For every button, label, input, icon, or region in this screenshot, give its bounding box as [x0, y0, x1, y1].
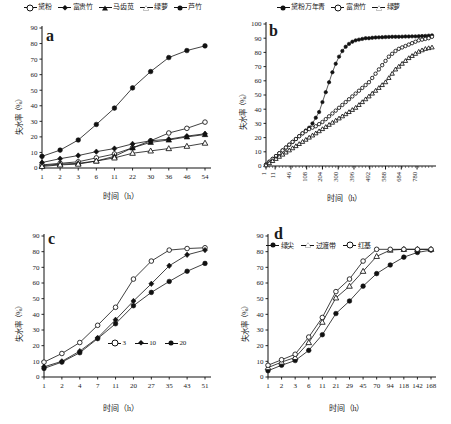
y-tick-label: 30	[33, 326, 41, 334]
panel-a: 黛粉富贵竹马齿苋绿萝芦竹 a 0102030405060708090123611…	[0, 0, 226, 212]
y-tick-label: 50	[255, 91, 263, 99]
x-tick-label: 1	[266, 382, 270, 390]
legend-line	[165, 343, 178, 344]
y-tick-label: 60	[257, 279, 265, 287]
legend-line	[301, 245, 314, 246]
x-tick-label: 45	[360, 382, 368, 390]
y-tick-label: 90	[33, 232, 41, 240]
y-tick-label: 40	[31, 102, 39, 110]
panel-d: d 01020304050607080901236112129457094118…	[226, 212, 451, 424]
series-黛粉	[40, 120, 208, 167]
legend-item-label: 10	[149, 339, 156, 347]
panel-b-plot: 0102030405060708090100111461082043003964…	[226, 0, 451, 212]
y-tick-label: 70	[255, 63, 263, 71]
x-tick-label: 46	[183, 173, 191, 181]
x-tick-label: 11	[269, 172, 276, 178]
x-tick-label: 780	[411, 172, 418, 182]
legend-item[interactable]: 红基	[343, 240, 371, 250]
panel-a-plot: 01020304050607080901236112230364654	[0, 0, 226, 212]
y-tick-label: 20	[33, 342, 41, 350]
legend-item-label: 20	[179, 339, 186, 347]
y-tick-label: 20	[31, 133, 39, 141]
y-tick-label: 10	[33, 358, 41, 366]
x-tick-label: 35	[166, 382, 174, 390]
legend-item-label: 绿尖	[281, 240, 295, 250]
x-tick-label: 396	[348, 171, 355, 182]
panel-b-y-title: 失水率（%）	[237, 90, 248, 130]
series-富贵竹	[40, 131, 208, 165]
legend-item[interactable]: 绿尖	[266, 240, 294, 250]
legend-item[interactable]: 过渡带	[301, 240, 336, 250]
y-tick-label: 50	[31, 87, 39, 95]
y-tick-label: 60	[255, 77, 263, 85]
x-tick-label: 492	[364, 172, 371, 182]
y-tick-label: 20	[257, 342, 265, 350]
panel-d-legend: 绿尖过渡带红基	[266, 240, 371, 250]
x-tick-label: 588	[380, 172, 387, 182]
y-tick-label: 0	[258, 162, 262, 170]
x-tick-label: 1	[40, 173, 44, 181]
x-tick-label: 6	[307, 382, 311, 390]
y-tick-label: 90	[257, 232, 265, 240]
x-tick-label: 11	[319, 382, 326, 390]
y-tick-label: 30	[31, 118, 39, 126]
x-tick-label: 36	[165, 173, 173, 181]
y-tick-label: 40	[33, 311, 41, 319]
legend-marker-filled-circle	[270, 243, 275, 248]
series-过渡带	[265, 246, 434, 369]
figure-grid: 黛粉富贵竹马齿苋绿萝芦竹 a 0102030405060708090123611…	[0, 0, 451, 424]
x-tick-label: 11	[112, 382, 119, 390]
x-tick-label: 300	[332, 172, 339, 182]
y-tick-label: 0	[260, 373, 264, 381]
legend-line	[108, 343, 121, 344]
x-tick-label: 43	[184, 382, 192, 390]
x-tick-label: 118	[399, 382, 410, 390]
legend-item[interactable]: 20	[165, 339, 186, 347]
y-tick-label: 30	[257, 326, 265, 334]
series-绿尖	[266, 248, 434, 373]
y-tick-label: 90	[255, 35, 263, 43]
x-tick-label: 684	[395, 171, 402, 182]
x-tick-label: 2	[280, 382, 284, 390]
panel-b-x-title: 时间（h）	[232, 192, 451, 203]
x-tick-label: 94	[387, 382, 395, 390]
x-tick-label: 142	[412, 382, 423, 390]
y-tick-label: 80	[31, 40, 39, 48]
series-富贵竹	[264, 35, 433, 166]
y-tick-label: 80	[255, 49, 263, 57]
y-tick-label: 60	[33, 279, 41, 287]
legend-item[interactable]: 10	[135, 339, 156, 347]
y-tick-label: 30	[255, 120, 263, 128]
panel-d-x-title: 时间（h）	[234, 402, 451, 413]
x-tick-label: 2	[60, 382, 64, 390]
x-tick-label: 22	[129, 173, 137, 181]
panel-c-x-title: 时间（h）	[8, 402, 234, 413]
x-tick-label: 168	[426, 382, 437, 390]
x-tick-label: 20	[130, 382, 138, 390]
legend-marker-open-circle	[111, 340, 118, 347]
x-tick-label: 204	[316, 171, 323, 182]
y-tick-label: 0	[36, 373, 40, 381]
legend-item-label: 过渡带	[316, 240, 336, 250]
x-tick-label: 70	[373, 382, 381, 390]
x-tick-label: 27	[148, 382, 156, 390]
panel-d-y-title: 失水率（%）	[239, 302, 250, 342]
series-20	[42, 261, 208, 371]
legend-marker-open-triangle	[305, 243, 311, 248]
legend-line	[266, 245, 279, 246]
panel-a-y-title: 失水率（%）	[13, 95, 24, 135]
x-tick-label: 2	[58, 173, 62, 181]
legend-item[interactable]: 3	[108, 339, 126, 347]
x-tick-label: 30	[147, 173, 155, 181]
x-tick-label: 21	[332, 382, 340, 390]
y-tick-label: 20	[255, 134, 263, 142]
x-tick-label: 108	[301, 172, 308, 182]
y-tick-label: 10	[31, 149, 39, 157]
panel-c: c 01020304050607080901247112027354351 31…	[0, 212, 226, 424]
series-红基	[266, 247, 434, 368]
x-tick-label: 3	[293, 382, 297, 390]
y-tick-label: 60	[31, 71, 39, 79]
y-tick-label: 90	[31, 24, 39, 32]
panel-c-legend: 31020	[108, 339, 186, 347]
y-tick-label: 80	[33, 248, 41, 256]
